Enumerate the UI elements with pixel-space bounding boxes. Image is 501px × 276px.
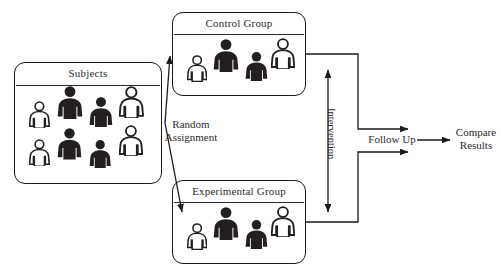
person-icon [245,219,268,253]
control-group-box-title: Control Group [173,17,305,29]
subjects-box: Subjects [14,62,162,184]
compare-results-line-2: Results [452,139,500,152]
person-icon [271,206,295,241]
person-icon [89,139,111,172]
experimental-group-box: Experimental Group [172,180,306,264]
control-group-box-divider [174,34,304,35]
follow-up-label: Follow Up [362,133,422,146]
random-assignment-line-1: Random [152,118,230,131]
person-icon [57,127,82,164]
compare-results-label: Compare Results [452,126,500,152]
person-icon [187,55,207,86]
random-assignment-label: Random Assignment [152,118,230,144]
person-icon [119,86,144,122]
person-icon [213,38,239,76]
person-icon [89,96,113,131]
intervention-label: Intervention [326,108,337,159]
connector-control-to-followup [306,54,408,129]
person-icon [57,85,83,123]
rct-flow-diagram: Subjects Control Group Experimental Grou… [0,0,501,276]
control-group-box: Control Group [172,12,306,96]
person-icon [29,101,50,132]
person-icon [245,51,268,85]
experimental-group-box-divider [174,202,304,203]
person-icon [213,206,239,244]
subjects-box-title: Subjects [15,67,161,79]
connector-experimental-to-followup [306,152,408,222]
person-icon [187,223,207,254]
person-icon [119,125,143,160]
person-icon [29,139,50,170]
experimental-group-box-title: Experimental Group [173,185,305,197]
compare-results-line-1: Compare [452,126,500,139]
random-assignment-line-2: Assignment [152,131,230,144]
person-icon [271,38,295,73]
arrow-subjects-to-control [165,56,170,123]
